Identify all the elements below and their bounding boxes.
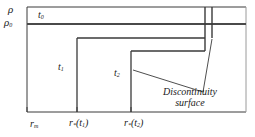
rstar-t2-close: ) bbox=[140, 117, 143, 128]
curve-label-t0: t0 bbox=[38, 10, 44, 20]
annotation-discontinuity-surface: Discontinuitysurface bbox=[163, 87, 217, 108]
discontinuity-surface-figure: ρ ρ0 t0 t1 t2 rm r*(t1) r*(t2) Discontin… bbox=[0, 0, 255, 137]
x-axis-label-rstar-t1: r*(t1) bbox=[69, 118, 88, 128]
annotation-line-1: Discontinuity bbox=[163, 86, 217, 97]
rstar-t1-close: ) bbox=[85, 117, 88, 128]
y-axis-label-rho-zero: ρ0 bbox=[4, 17, 12, 28]
t0-subscript: 0 bbox=[41, 14, 44, 20]
rm-subscript: m bbox=[34, 123, 38, 129]
x-axis-label-rm: rm bbox=[30, 119, 38, 129]
t1-subscript: 1 bbox=[61, 66, 64, 72]
curve-label-t2: t2 bbox=[114, 68, 120, 78]
t2-subscript: 2 bbox=[117, 72, 120, 78]
x-axis-label-rstar-t2: r*(t2) bbox=[124, 118, 143, 128]
curve-label-t1: t1 bbox=[58, 62, 64, 72]
y-axis-label-rho: ρ bbox=[8, 4, 13, 15]
annotation-line-2: surface bbox=[175, 97, 204, 108]
rho-zero-subscript: 0 bbox=[9, 22, 12, 28]
